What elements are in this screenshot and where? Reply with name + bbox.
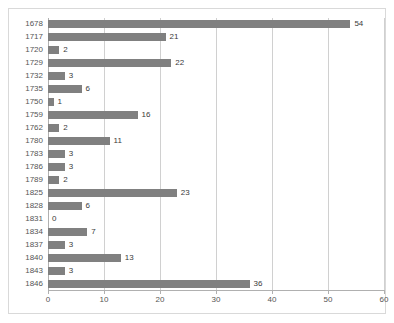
category-label: 1789 — [25, 176, 43, 184]
category-label: 1720 — [25, 46, 43, 54]
bar-value-label: 3 — [69, 267, 73, 275]
x-tick-0 — [48, 290, 49, 294]
bar-row: 172922 — [48, 59, 384, 67]
gridline-x-60 — [384, 18, 385, 290]
category-label: 1717 — [25, 33, 43, 41]
plot-area: 1678541717211720217292217323173561750117… — [48, 18, 384, 290]
bar — [48, 228, 87, 236]
bar-value-label: 54 — [354, 20, 363, 28]
bar-chart-figure: 1678541717211720217292217323173561750117… — [0, 0, 394, 323]
bar-value-label: 3 — [69, 241, 73, 249]
category-label: 1759 — [25, 111, 43, 119]
bar-row: 17622 — [48, 124, 384, 132]
category-label: 1840 — [25, 254, 43, 262]
bar-row: 182523 — [48, 189, 384, 197]
bar — [48, 85, 82, 93]
category-label: 1846 — [25, 280, 43, 288]
bar-row: 17501 — [48, 98, 384, 106]
bar-value-label: 21 — [170, 33, 179, 41]
bar-value-label: 3 — [69, 72, 73, 80]
bar-value-label: 0 — [52, 215, 56, 223]
bar-row: 18286 — [48, 202, 384, 210]
bar-row: 18347 — [48, 228, 384, 236]
bar-value-label: 11 — [114, 137, 122, 145]
category-label: 1837 — [25, 241, 43, 249]
x-tick-30 — [216, 290, 217, 294]
bar-value-label: 3 — [69, 150, 73, 158]
bar-value-label: 6 — [86, 202, 90, 210]
category-label: 1843 — [25, 267, 43, 275]
bar — [48, 46, 59, 54]
bar-row: 17833 — [48, 150, 384, 158]
bar — [48, 98, 54, 106]
category-label: 1786 — [25, 163, 43, 171]
bar-row: 184636 — [48, 280, 384, 288]
bar-value-label: 13 — [125, 254, 134, 262]
bar — [48, 202, 82, 210]
x-tick-50 — [328, 290, 329, 294]
bar — [48, 20, 350, 28]
bar-value-label: 7 — [91, 228, 95, 236]
category-label: 1780 — [25, 137, 43, 145]
bar-value-label: 23 — [181, 189, 190, 197]
category-label: 1729 — [25, 59, 43, 67]
category-label: 1831 — [25, 215, 43, 223]
bar-value-label: 16 — [142, 111, 151, 119]
bar — [48, 189, 177, 197]
bar-row: 17863 — [48, 163, 384, 171]
category-label: 1735 — [25, 85, 43, 93]
category-label: 1678 — [25, 20, 43, 28]
x-tick-60 — [384, 290, 385, 294]
x-tick-label: 10 — [100, 296, 109, 304]
bar — [48, 280, 250, 288]
bar-row: 184013 — [48, 254, 384, 262]
category-label: 1762 — [25, 124, 43, 132]
bar — [48, 267, 65, 275]
bar-row: 178011 — [48, 137, 384, 145]
bar-value-label: 36 — [254, 280, 263, 288]
bar-row: 18310 — [48, 215, 384, 223]
bar — [48, 137, 110, 145]
bar — [48, 124, 59, 132]
bar-row: 17356 — [48, 85, 384, 93]
bar-value-label: 2 — [63, 46, 67, 54]
x-tick-label: 60 — [380, 296, 389, 304]
x-tick-label: 40 — [268, 296, 277, 304]
bars-layer: 1678541717211720217292217323173561750117… — [48, 18, 384, 290]
bar — [48, 163, 65, 171]
bar-row: 17323 — [48, 72, 384, 80]
bar-value-label: 1 — [58, 98, 62, 106]
x-tick-10 — [104, 290, 105, 294]
x-tick-label: 20 — [156, 296, 165, 304]
category-label: 1732 — [25, 72, 43, 80]
bar — [48, 150, 65, 158]
bar — [48, 254, 121, 262]
category-label: 1828 — [25, 202, 43, 210]
bar-value-label: 2 — [63, 176, 67, 184]
bar-row: 18373 — [48, 241, 384, 249]
bar-row: 18433 — [48, 267, 384, 275]
bar — [48, 241, 65, 249]
bar-row: 171721 — [48, 33, 384, 41]
bar-value-label: 2 — [63, 124, 67, 132]
bar-row: 175916 — [48, 111, 384, 119]
category-label: 1825 — [25, 189, 43, 197]
bar-value-label: 3 — [69, 163, 73, 171]
bar-value-label: 22 — [175, 59, 184, 67]
x-tick-20 — [160, 290, 161, 294]
bar-row: 17202 — [48, 46, 384, 54]
bar-row: 17892 — [48, 176, 384, 184]
bar-row: 167854 — [48, 20, 384, 28]
bar — [48, 72, 65, 80]
category-label: 1783 — [25, 150, 43, 158]
category-label: 1750 — [25, 98, 43, 106]
bar — [48, 176, 59, 184]
category-label: 1834 — [25, 228, 43, 236]
bar-value-label: 6 — [86, 85, 90, 93]
x-tick-label: 50 — [324, 296, 333, 304]
bar — [48, 111, 138, 119]
bar — [48, 59, 171, 67]
bar — [48, 33, 166, 41]
x-tick-label: 0 — [46, 296, 50, 304]
x-tick-label: 30 — [212, 296, 221, 304]
